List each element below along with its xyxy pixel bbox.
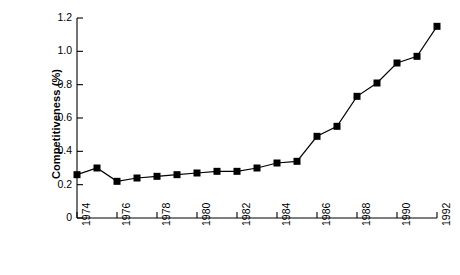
data-point-marker — [394, 60, 401, 67]
data-point-marker — [254, 165, 261, 172]
data-point-marker — [74, 171, 81, 178]
data-point-marker — [114, 178, 121, 185]
data-point-marker — [334, 123, 341, 130]
chart-figure: Competitiveness (%) 00.20.40.60.81.01.2 … — [0, 0, 460, 275]
data-point-marker — [434, 23, 441, 30]
data-point-marker — [374, 80, 381, 87]
data-point-marker — [354, 93, 361, 100]
data-point-marker — [314, 133, 321, 140]
data-point-marker — [94, 165, 101, 172]
line-chart-plot — [0, 0, 460, 275]
data-point-marker — [234, 168, 241, 175]
axes-group — [77, 18, 437, 218]
data-point-marker — [294, 158, 301, 165]
data-point-marker — [194, 170, 201, 177]
data-point-marker — [174, 171, 181, 178]
y-axis-ticks — [77, 18, 83, 218]
data-point-marker — [274, 160, 281, 167]
data-line — [77, 26, 437, 181]
data-markers — [74, 23, 441, 185]
x-axis-ticks — [77, 212, 437, 218]
data-point-marker — [414, 53, 421, 60]
data-point-marker — [214, 168, 221, 175]
data-point-marker — [154, 173, 161, 180]
data-point-marker — [134, 175, 141, 182]
